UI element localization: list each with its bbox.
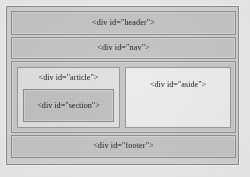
div-nav-label: <div id="nav"> xyxy=(97,44,150,52)
div-aside-label: <div id="aside"> xyxy=(126,68,230,89)
layout-container-box: <div id="header"> <div id="nav"> <div id… xyxy=(6,6,239,165)
div-section-label: <div id="section"> xyxy=(37,101,100,110)
div-footer-label: <div id="footer"> xyxy=(93,142,154,150)
div-footer-block: <div id="footer"> xyxy=(11,135,236,158)
div-nav-block: <div id="nav"> xyxy=(11,37,236,59)
div-header-block: <div id="header"> xyxy=(11,11,236,35)
div-article-block: <div id="article"> <div id="section"> xyxy=(17,67,120,128)
div-section-block: <div id="section"> xyxy=(23,89,114,122)
div-aside-block: <div id="aside"> xyxy=(125,67,231,128)
div-header-label: <div id="header"> xyxy=(92,19,155,27)
content-row-container: <div id="article"> <div id="section"> <d… xyxy=(11,61,236,133)
scanned-diagram-page: <div id="header"> <div id="nav"> <div id… xyxy=(0,0,250,177)
div-article-label: <div id="article"> xyxy=(18,68,119,82)
